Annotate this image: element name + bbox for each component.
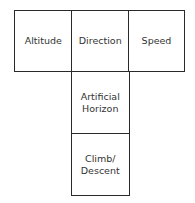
speed-label: Speed xyxy=(142,35,172,47)
direction-box: Direction xyxy=(71,10,130,72)
speed-box: Speed xyxy=(128,10,185,72)
artificial-horizon-box: Artificial Horizon xyxy=(71,71,130,135)
altitude-box: Altitude xyxy=(14,10,73,72)
artificial-horizon-label: Artificial Horizon xyxy=(81,91,120,115)
direction-label: Direction xyxy=(79,35,122,47)
altitude-label: Altitude xyxy=(25,35,62,47)
climb-descent-label: Climb/ Descent xyxy=(81,153,120,177)
climb-descent-box: Climb/ Descent xyxy=(71,133,130,196)
